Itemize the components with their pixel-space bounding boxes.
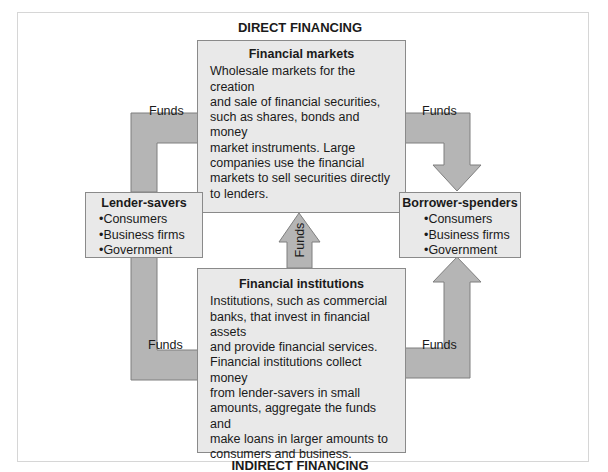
text-line: Financial institutions collect money <box>210 355 393 386</box>
funds-arrow-bottom-right <box>404 257 481 378</box>
list-item: Business firms <box>99 228 202 243</box>
list-item: Consumers <box>99 212 202 227</box>
funds-arrow-top-right <box>404 113 481 191</box>
lender-savers-box: Lender-savers Consumers Business firms G… <box>85 192 203 258</box>
text-line: banks, that invest in financial assets <box>210 310 393 341</box>
list-item: Consumers <box>424 212 520 227</box>
text-line: make loans in larger amounts to <box>210 432 393 447</box>
text-line: and sale of financial securities, <box>210 95 393 110</box>
text-line: to lenders. <box>210 187 393 202</box>
financial-institutions-description: Institutions, such as commercial banks, … <box>198 294 405 462</box>
funds-label-bottom-left: Funds <box>148 338 183 352</box>
text-line: from lender-savers in small <box>210 386 393 401</box>
text-line: Institutions, such as commercial <box>210 294 393 309</box>
borrower-spenders-title: Borrower-spenders <box>400 196 520 211</box>
funds-arrow-top-left <box>131 113 198 192</box>
indirect-financing-heading: INDIRECT FINANCING <box>170 458 430 472</box>
financial-markets-box: Financial markets Wholesale markets for … <box>197 40 406 213</box>
funds-label-top-left: Funds <box>149 104 184 118</box>
financial-institutions-title: Financial institutions <box>198 277 405 292</box>
text-line: market instruments. Large <box>210 141 393 156</box>
funds-arrow-bottom-left <box>131 257 198 380</box>
financial-institutions-box: Financial institutions Institutions, suc… <box>197 268 406 453</box>
text-line: Wholesale markets for the creation <box>210 64 393 95</box>
financial-markets-description: Wholesale markets for the creation and s… <box>198 64 405 202</box>
funds-label-top-right: Funds <box>422 104 457 118</box>
lender-savers-list: Consumers Business firms Government <box>86 212 202 258</box>
text-line: and provide financial services. <box>210 340 393 355</box>
text-line: companies use the financial <box>210 156 393 171</box>
text-line: such as shares, bonds and money <box>210 110 393 141</box>
direct-financing-heading: DIRECT FINANCING <box>170 20 430 35</box>
lender-savers-title: Lender-savers <box>86 196 202 211</box>
funds-label-bottom-right: Funds <box>422 338 457 352</box>
text-line: amounts, aggregate the funds and <box>210 401 393 432</box>
borrower-spenders-list: Consumers Business firms Government <box>400 212 520 258</box>
list-item: Government <box>99 243 202 258</box>
list-item: Government <box>424 243 520 258</box>
text-line: markets to sell securities directly <box>210 171 393 186</box>
list-item: Business firms <box>424 228 520 243</box>
financial-markets-title: Financial markets <box>198 47 405 62</box>
funds-label-middle: Funds <box>293 222 307 258</box>
borrower-spenders-box: Borrower-spenders Consumers Business fir… <box>399 192 521 258</box>
